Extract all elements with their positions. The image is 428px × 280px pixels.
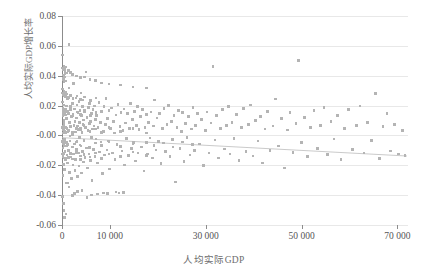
data-point <box>122 129 125 132</box>
data-point <box>76 104 79 107</box>
data-point <box>143 170 146 173</box>
data-point <box>89 99 92 102</box>
data-point <box>174 181 177 184</box>
data-point <box>162 142 165 145</box>
data-point <box>289 111 292 114</box>
data-point <box>151 157 154 160</box>
data-point <box>115 114 118 117</box>
y-tick-label: -0.06 <box>36 220 56 230</box>
data-point <box>100 157 103 160</box>
data-point <box>393 123 396 126</box>
data-point <box>99 121 102 124</box>
data-point <box>136 105 139 108</box>
data-point <box>164 150 167 153</box>
data-point <box>161 127 164 130</box>
data-point <box>163 107 166 110</box>
data-point <box>347 108 350 111</box>
data-point <box>67 156 70 159</box>
y-tick-label: -0.02 <box>36 160 56 170</box>
x-tick-label: 50 000 <box>289 231 315 241</box>
data-point <box>100 110 103 113</box>
data-point <box>95 111 98 114</box>
data-point <box>245 150 248 153</box>
data-point <box>83 109 86 112</box>
data-point <box>280 117 283 120</box>
data-point <box>363 152 366 155</box>
data-point <box>132 86 135 89</box>
data-point <box>71 158 74 161</box>
y-tick-label: 0.06 <box>39 41 56 51</box>
data-point <box>223 148 226 151</box>
data-point <box>69 140 72 143</box>
data-point <box>62 202 65 205</box>
data-point <box>82 99 85 102</box>
data-point <box>75 127 78 130</box>
data-point <box>78 165 81 168</box>
data-point <box>67 96 70 99</box>
data-point <box>149 137 152 140</box>
data-point <box>113 132 116 135</box>
data-point <box>153 99 156 102</box>
data-point <box>61 54 64 57</box>
data-point <box>119 145 122 148</box>
y-tick-label: 0.02 <box>39 101 56 111</box>
data-point <box>323 106 326 109</box>
data-point <box>66 162 69 165</box>
data-point <box>147 121 150 124</box>
data-point <box>145 141 148 144</box>
data-point <box>66 93 69 96</box>
data-point <box>79 113 82 116</box>
x-tick <box>206 225 207 229</box>
data-point <box>292 151 295 154</box>
data-point <box>198 143 201 146</box>
x-tick <box>62 225 63 229</box>
x-axis-title: 人均实际GDP <box>0 252 428 266</box>
data-point <box>179 147 182 150</box>
data-point <box>135 124 138 127</box>
data-point <box>286 129 289 132</box>
data-point <box>336 114 339 117</box>
data-point <box>85 147 88 150</box>
data-point <box>351 148 354 151</box>
data-point <box>370 139 373 142</box>
data-point <box>118 192 121 195</box>
data-point <box>283 167 286 170</box>
data-point <box>75 141 78 144</box>
data-point <box>374 92 377 95</box>
data-point <box>66 182 69 185</box>
data-point <box>117 103 120 106</box>
data-point <box>269 149 272 152</box>
data-point <box>68 171 71 174</box>
data-point <box>200 118 203 121</box>
y-axis-title: 人均实际GDP增长率 <box>22 0 35 139</box>
data-point <box>98 101 101 104</box>
data-point <box>68 43 71 46</box>
data-point <box>382 125 385 128</box>
data-point <box>74 169 77 172</box>
x-tick-label: 10 000 <box>97 231 123 241</box>
data-point <box>233 137 236 140</box>
data-point <box>74 158 77 161</box>
data-point <box>63 216 66 219</box>
data-point <box>94 79 97 82</box>
data-point <box>74 120 77 123</box>
data-point <box>75 151 78 154</box>
data-point <box>145 113 148 116</box>
data-point <box>309 126 312 129</box>
data-point <box>64 80 67 83</box>
data-point <box>102 192 105 195</box>
data-point <box>397 153 400 156</box>
data-point <box>359 105 362 108</box>
data-point <box>123 164 126 167</box>
data-point <box>160 162 163 165</box>
data-point <box>83 153 86 156</box>
data-point <box>90 194 93 197</box>
data-point <box>111 152 114 155</box>
data-point <box>173 114 176 117</box>
data-point <box>72 164 75 167</box>
data-point <box>94 152 97 155</box>
data-point <box>65 117 68 120</box>
data-point <box>249 104 252 107</box>
data-point <box>100 144 103 147</box>
data-point <box>210 122 213 125</box>
